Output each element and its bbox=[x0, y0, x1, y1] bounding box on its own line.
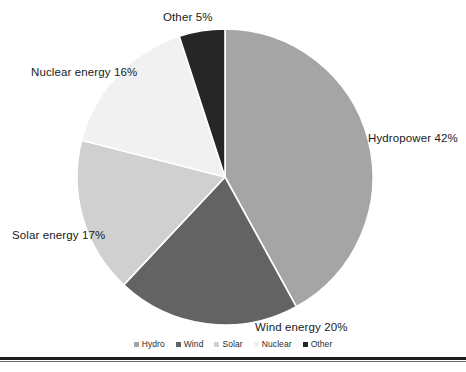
data-label-nuclear: Nuclear energy 16% bbox=[31, 66, 137, 79]
legend-label: Hydro bbox=[142, 339, 165, 349]
data-label-hydro: Hydropower 42% bbox=[368, 132, 458, 145]
footer-rule bbox=[0, 357, 466, 360]
legend-item-other[interactable]: Other bbox=[303, 339, 333, 349]
legend-label: Wind bbox=[184, 339, 204, 349]
data-label-other: Other 5% bbox=[163, 11, 213, 24]
legend-item-solar[interactable]: Solar bbox=[214, 339, 242, 349]
legend-swatch-icon bbox=[303, 342, 308, 347]
legend-item-wind[interactable]: Wind bbox=[176, 339, 204, 349]
data-label-solar: Solar energy 17% bbox=[12, 229, 105, 242]
legend-swatch-icon bbox=[134, 342, 139, 347]
legend-swatch-icon bbox=[254, 342, 259, 347]
legend-item-hydro[interactable]: Hydro bbox=[134, 339, 165, 349]
data-label-wind: Wind energy 20% bbox=[255, 321, 348, 334]
legend-item-nuclear[interactable]: Nuclear bbox=[254, 339, 292, 349]
legend-swatch-icon bbox=[176, 342, 181, 347]
legend-label: Solar bbox=[222, 339, 242, 349]
legend-label: Nuclear bbox=[262, 339, 292, 349]
pie-chart-figure: Hydropower 42% Wind energy 20% Solar ene… bbox=[0, 0, 466, 372]
chart-plot-area: Hydropower 42% Wind energy 20% Solar ene… bbox=[0, 0, 466, 340]
footer-rule-secondary bbox=[0, 361, 466, 362]
pie-chart-svg bbox=[0, 0, 466, 340]
legend-swatch-icon bbox=[214, 342, 219, 347]
chart-legend: HydroWindSolarNuclearOther bbox=[0, 339, 466, 349]
legend-label: Other bbox=[311, 339, 333, 349]
